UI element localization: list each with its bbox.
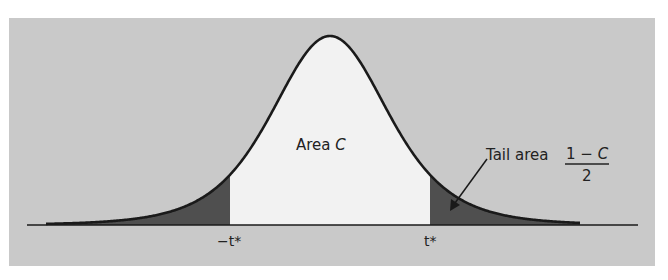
area-c-label: Area C: [296, 136, 346, 154]
neg-t-star-tick-label: −t*: [217, 233, 241, 249]
fraction-denominator: 2: [582, 167, 592, 185]
area-c-prefix: Area: [296, 136, 335, 154]
area-c-variable: C: [335, 136, 346, 154]
pos-t-star-tick-label: t*: [424, 233, 437, 249]
fraction-numerator-variable: C: [598, 145, 609, 163]
t-distribution-figure: Area C Tail area 1 − C 2 −t* t*: [0, 0, 668, 280]
fraction-numerator-prefix: 1 −: [566, 145, 598, 163]
fraction-numerator: 1 − C: [566, 145, 609, 163]
tail-area-label: Tail area: [485, 146, 548, 164]
